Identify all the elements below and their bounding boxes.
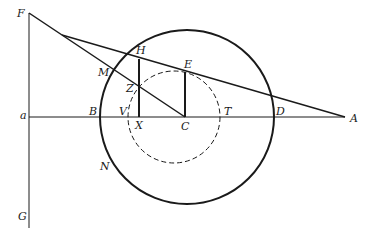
label-N: N: [99, 160, 110, 173]
label-G: G: [18, 210, 27, 223]
label-T: T: [224, 105, 233, 118]
label-a: a: [20, 109, 27, 122]
line-F-to-C: [29, 13, 185, 117]
label-X: X: [134, 119, 144, 132]
label-B: B: [88, 105, 97, 118]
label-V: V: [119, 105, 128, 118]
label-Z: Z: [125, 82, 134, 95]
label-H: H: [135, 44, 146, 57]
label-D: D: [275, 105, 285, 118]
label-F: F: [16, 7, 25, 20]
geometry-diagram: F H E M Z a B V X C T D A N G: [0, 0, 371, 233]
label-A: A: [349, 112, 358, 125]
label-M: M: [97, 66, 110, 79]
label-E: E: [183, 58, 192, 71]
label-C: C: [181, 120, 190, 133]
